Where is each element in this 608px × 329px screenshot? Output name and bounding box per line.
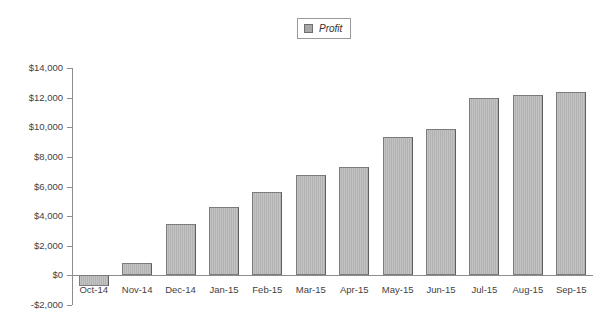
y-axis-tick: $10,000 xyxy=(0,127,72,128)
chart-legend: Profit xyxy=(297,18,351,39)
legend-label-profit: Profit xyxy=(319,24,342,34)
y-axis-tick: $0 xyxy=(0,275,72,276)
profit-bar-chart: Profit $14,000$12,000$10,000$8,000$6,000… xyxy=(0,0,608,329)
y-tick-label: $8,000 xyxy=(34,150,63,163)
x-axis-label: Apr-15 xyxy=(333,283,376,297)
x-axis-label: Mar-15 xyxy=(289,283,332,297)
y-axis-tick: -$2,000 xyxy=(0,305,72,306)
y-tick-label: $2,000 xyxy=(34,239,63,252)
bar-apr-15[interactable] xyxy=(339,167,369,275)
y-tick-label: $6,000 xyxy=(34,180,63,193)
y-axis-tick: $4,000 xyxy=(0,216,72,217)
x-axis-label: Jul-15 xyxy=(463,283,506,297)
bar-aug-15[interactable] xyxy=(513,95,543,276)
y-tick-label: $0 xyxy=(52,268,63,281)
y-axis-tick: $12,000 xyxy=(0,98,72,99)
bar-jun-15[interactable] xyxy=(426,129,456,275)
y-tick-label: $10,000 xyxy=(29,120,63,133)
bar-slot xyxy=(202,68,245,305)
bars-container xyxy=(72,68,593,305)
bar-nov-14[interactable] xyxy=(122,263,152,276)
bar-feb-15[interactable] xyxy=(252,192,282,275)
bar-slot xyxy=(72,68,115,305)
y-tick-label: -$2,000 xyxy=(31,298,63,311)
x-axis-label: Dec-14 xyxy=(159,283,202,297)
bar-slot xyxy=(419,68,462,305)
bar-slot xyxy=(506,68,549,305)
y-axis-tick: $6,000 xyxy=(0,187,72,188)
x-axis-label: Aug-15 xyxy=(506,283,549,297)
bar-slot xyxy=(550,68,593,305)
bar-slot xyxy=(333,68,376,305)
bar-mar-15[interactable] xyxy=(296,175,326,276)
x-axis-label: Jan-15 xyxy=(202,283,245,297)
bar-jul-15[interactable] xyxy=(469,98,499,275)
bar-slot xyxy=(463,68,506,305)
legend-swatch-profit-icon xyxy=(304,24,313,33)
x-axis-label: Jun-15 xyxy=(419,283,462,297)
y-tick-label: $4,000 xyxy=(34,209,63,222)
y-axis-tick: $2,000 xyxy=(0,246,72,247)
x-axis-labels: Oct-14Nov-14Dec-14Jan-15Feb-15Mar-15Apr-… xyxy=(72,283,593,301)
bar-sep-15[interactable] xyxy=(556,92,586,276)
x-axis-label: Sep-15 xyxy=(550,283,593,297)
x-axis-label: Feb-15 xyxy=(246,283,289,297)
bar-slot xyxy=(246,68,289,305)
y-axis-tick: $8,000 xyxy=(0,157,72,158)
bar-slot xyxy=(115,68,158,305)
y-tick-mark xyxy=(67,305,72,306)
x-axis-label: Nov-14 xyxy=(115,283,158,297)
x-axis-label: Oct-14 xyxy=(72,283,115,297)
bar-slot xyxy=(159,68,202,305)
x-axis-label: May-15 xyxy=(376,283,419,297)
bar-jan-15[interactable] xyxy=(209,207,239,275)
y-tick-label: $12,000 xyxy=(29,91,63,104)
y-tick-label: $14,000 xyxy=(29,61,63,74)
bar-slot xyxy=(289,68,332,305)
bar-slot xyxy=(376,68,419,305)
bar-may-15[interactable] xyxy=(383,137,413,275)
bar-dec-14[interactable] xyxy=(166,224,196,275)
y-axis-tick: $14,000 xyxy=(0,68,72,69)
